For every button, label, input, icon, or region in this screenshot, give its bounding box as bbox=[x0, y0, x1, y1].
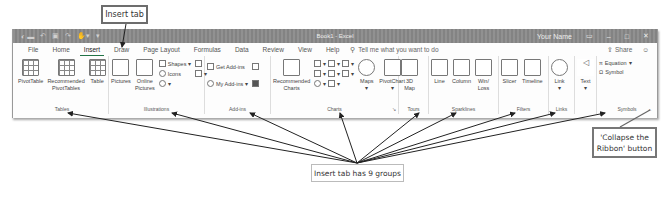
label: Recommended bbox=[273, 78, 310, 85]
label: Maps bbox=[360, 78, 373, 85]
pie-chart-icon[interactable] bbox=[328, 70, 335, 77]
sparkline-line-icon bbox=[431, 59, 448, 76]
group-tables: PivotTable RecommendedPivotTables Table … bbox=[16, 56, 109, 114]
group-label-tables: Tables bbox=[16, 104, 108, 114]
tab-page-layout[interactable]: Page Layout bbox=[136, 46, 187, 53]
waterfall-chart-icon[interactable] bbox=[328, 80, 335, 87]
hierarchy-chart-icon[interactable] bbox=[328, 60, 335, 67]
group-label-links: Links bbox=[549, 104, 574, 114]
customize-qat-icon[interactable]: ▾ bbox=[96, 32, 100, 40]
recommended-charts-icon bbox=[283, 59, 300, 76]
tab-view[interactable]: View bbox=[291, 46, 319, 53]
label: PivotTables bbox=[52, 85, 80, 92]
people-graph-button[interactable] bbox=[252, 80, 259, 87]
sparkline-column-icon bbox=[453, 59, 470, 76]
redo-icon[interactable]: ↷ bbox=[65, 32, 71, 40]
pictures-icon bbox=[112, 59, 129, 76]
excel-window: ◐ ▬ ↶ ▣ ↷ ✋▾ ▾ Book1 - Excel Your Name ▭… bbox=[12, 29, 658, 118]
combo-chart-icon[interactable] bbox=[314, 80, 321, 87]
group-charts: RecommendedCharts ▾▾▾ ▾▾▾ ▾▾ Maps▾ Pivot… bbox=[271, 56, 399, 114]
tab-insert[interactable]: Insert bbox=[77, 46, 107, 53]
label: Text bbox=[580, 78, 590, 85]
autosave-toggle[interactable]: ◐ ▬ bbox=[21, 33, 34, 40]
document-title: Book1 - Excel bbox=[316, 33, 353, 39]
pictures-button[interactable]: Pictures bbox=[109, 59, 133, 104]
ribbon-tabs: File Home Insert Draw Page Layout Formul… bbox=[13, 43, 657, 56]
save-icon[interactable]: ▣ bbox=[52, 32, 59, 40]
undo-icon[interactable]: ↶ bbox=[40, 32, 46, 40]
slicer-button[interactable]: Slicer bbox=[499, 59, 520, 104]
quick-access-toolbar: ◐ ▬ ↶ ▣ ↷ ✋▾ ▾ bbox=[13, 32, 100, 40]
online-pictures-button[interactable]: OnlinePictures bbox=[133, 59, 157, 104]
timeline-icon bbox=[524, 59, 541, 76]
ribbon-display-options-icon[interactable]: ▭ bbox=[586, 32, 593, 40]
tab-draw[interactable]: Draw bbox=[107, 46, 136, 53]
label: Symbol bbox=[605, 69, 623, 75]
3d-map-icon bbox=[401, 59, 418, 76]
text-button[interactable]: ◁Text▾ bbox=[575, 59, 596, 104]
label: Pictures bbox=[135, 85, 155, 92]
callout-line: 'Collapse the bbox=[600, 133, 649, 142]
line-chart-icon[interactable] bbox=[342, 60, 349, 67]
close-icon[interactable]: ✕ bbox=[643, 32, 649, 40]
3d-map-button[interactable]: 3DMap bbox=[399, 59, 420, 104]
statistic-chart-icon[interactable] bbox=[314, 70, 321, 77]
tab-review[interactable]: Review bbox=[256, 46, 291, 53]
tab-help[interactable]: Help bbox=[319, 46, 346, 53]
group-text: ◁Text▾ bbox=[575, 56, 597, 114]
label: PivotTable bbox=[18, 78, 43, 85]
tell-me-search[interactable]: ⚲ Tell me what you want to do bbox=[350, 46, 438, 54]
recommended-charts-button[interactable]: RecommendedCharts bbox=[271, 59, 312, 104]
scatter-chart-icon[interactable] bbox=[342, 70, 349, 77]
smiley-icon[interactable]: ☺ bbox=[642, 46, 649, 53]
maps-button[interactable]: Maps▾ bbox=[356, 59, 377, 104]
label: Slicer bbox=[503, 78, 517, 85]
tab-formulas[interactable]: Formulas bbox=[187, 46, 228, 53]
table-button[interactable]: Table bbox=[87, 59, 108, 104]
share-button[interactable]: ⇪ Share bbox=[607, 46, 632, 54]
label: Shapes bbox=[168, 61, 187, 67]
tab-data[interactable]: Data bbox=[228, 46, 256, 53]
charts-dialog-launcher[interactable]: ↘ bbox=[392, 106, 396, 112]
maximize-icon[interactable]: □ bbox=[625, 33, 629, 40]
group-label-tours: Tours bbox=[399, 104, 428, 114]
pivottable-button[interactable]: PivotTable bbox=[16, 59, 45, 104]
group-label-charts: Charts bbox=[271, 104, 398, 114]
label: Loss bbox=[478, 85, 490, 92]
callout-text: Insert tab has 9 groups bbox=[314, 168, 401, 179]
recommended-pivottables-button[interactable]: RecommendedPivotTables bbox=[45, 59, 86, 104]
share-label: Share bbox=[615, 46, 632, 53]
column-chart-icon[interactable] bbox=[314, 60, 321, 67]
tab-file[interactable]: File bbox=[21, 46, 45, 53]
callout-text: Insert tab bbox=[105, 9, 144, 20]
tab-home[interactable]: Home bbox=[45, 46, 76, 53]
minimize-icon[interactable]: – bbox=[607, 33, 611, 40]
bing-maps-icon bbox=[252, 63, 259, 70]
sparkline-winloss-button[interactable]: Win/Loss bbox=[473, 59, 494, 104]
sparkline-column-button[interactable]: Column bbox=[450, 59, 473, 104]
group-symbols: πEquation▾ ΩSymbol Symbols bbox=[597, 56, 657, 114]
pi-icon: π bbox=[599, 60, 603, 66]
user-name[interactable]: Your Name bbox=[537, 33, 572, 40]
shapes-button[interactable]: Shapes▾ bbox=[159, 60, 192, 67]
label: Map bbox=[404, 85, 415, 92]
symbol-button[interactable]: ΩSymbol bbox=[599, 69, 632, 75]
timeline-button[interactable]: Timeline bbox=[520, 59, 545, 104]
label: Recommended bbox=[47, 78, 84, 85]
sparkline-line-button[interactable]: Line bbox=[429, 59, 450, 104]
label: Icons bbox=[168, 71, 181, 77]
equation-button[interactable]: πEquation▾ bbox=[599, 60, 632, 66]
3d-models-button[interactable]: ▾ bbox=[159, 80, 192, 87]
link-button[interactable]: Link▾ bbox=[549, 59, 570, 104]
icons-button[interactable]: Icons bbox=[159, 70, 192, 77]
bing-maps-button[interactable] bbox=[252, 63, 259, 70]
collapse-ribbon-button[interactable]: ^ bbox=[648, 108, 651, 114]
omega-icon: Ω bbox=[599, 69, 603, 75]
touch-mode-icon[interactable]: ✋▾ bbox=[77, 32, 90, 40]
my-addins-button[interactable]: My Add-ins▾ bbox=[207, 80, 248, 87]
label: Line bbox=[434, 78, 444, 85]
get-addins-button[interactable]: Get Add-ins bbox=[207, 63, 248, 70]
label: Table bbox=[91, 78, 104, 85]
group-filters: Slicer Timeline Filters bbox=[499, 56, 549, 114]
group-addins: Get Add-ins My Add-ins▾ Add-ins bbox=[205, 56, 271, 114]
